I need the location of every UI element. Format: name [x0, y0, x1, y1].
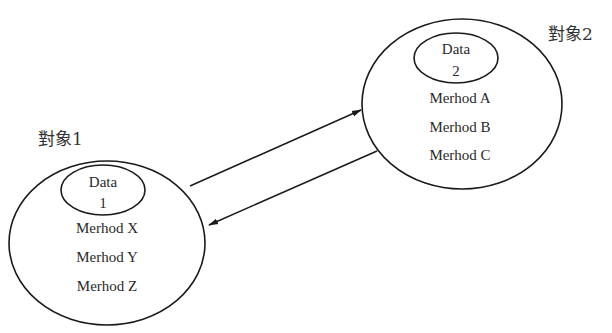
- arrow-object2-to-object1: [209, 151, 377, 225]
- data-2-label: Data: [416, 41, 496, 58]
- object-2-label: 對象2: [548, 20, 593, 45]
- object-1-label: 對象1: [38, 125, 83, 150]
- method-z: Merhod Z: [47, 278, 167, 295]
- method-a: Merhod A: [400, 90, 520, 107]
- method-y: Merhod Y: [47, 249, 167, 266]
- data-1-label: Data: [63, 174, 143, 191]
- data-1-number: 1: [63, 195, 143, 212]
- method-x: Merhod X: [47, 220, 167, 237]
- method-b: Merhod B: [400, 119, 520, 136]
- arrow-object1-to-object2: [190, 110, 361, 186]
- method-c: Merhod C: [400, 147, 520, 164]
- data-2-number: 2: [416, 63, 496, 80]
